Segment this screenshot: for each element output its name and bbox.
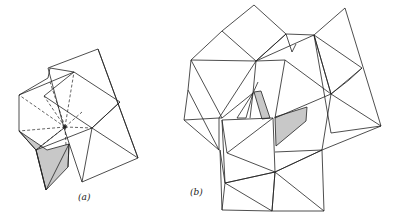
poly-b-21 xyxy=(222,172,275,211)
dashed-edge xyxy=(44,96,65,127)
poly-b-14 xyxy=(237,93,253,118)
dashed-edge xyxy=(65,127,66,145)
poly-a-1 xyxy=(19,68,74,95)
poly-b-6 xyxy=(184,120,219,150)
diagram-canvas: (a) (b) xyxy=(0,0,395,220)
panel-a-label: (a) xyxy=(78,192,91,202)
edge-a xyxy=(98,49,138,158)
panel-b-label: (b) xyxy=(190,187,203,197)
poly-b-12 xyxy=(285,60,331,94)
poly-b-5 xyxy=(188,90,219,150)
poly-b-4 xyxy=(191,60,222,118)
shaded-face-b2 xyxy=(275,107,307,146)
edge-a xyxy=(92,102,120,128)
dashed-edge xyxy=(19,95,65,127)
dashed-edge xyxy=(65,72,74,127)
poly-b-13 xyxy=(286,34,296,52)
panel-b: (b) xyxy=(184,5,381,211)
poly-b-10 xyxy=(256,35,331,118)
panel-a: (a) xyxy=(19,49,138,202)
poly-b-9 xyxy=(314,35,362,94)
poly-b-18 xyxy=(222,118,273,153)
poly-b-3 xyxy=(184,60,256,120)
dashed-edge xyxy=(65,127,92,128)
poly-b-1 xyxy=(222,5,286,61)
shaded-face-b1 xyxy=(254,91,270,119)
dashed-edge xyxy=(19,127,65,131)
poly-b-23 xyxy=(275,172,324,211)
center-vertex xyxy=(63,125,67,129)
poly-a-4 xyxy=(74,72,120,182)
